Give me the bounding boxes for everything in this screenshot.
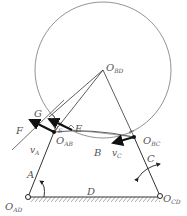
label-obd: OBD: [106, 62, 124, 74]
label-f: F: [15, 125, 24, 136]
joint-obc: [132, 135, 136, 139]
ground-hatch: [29, 197, 160, 202]
label-va: vA: [30, 145, 40, 156]
label-a: A: [26, 169, 34, 180]
label-vc: vC: [112, 148, 122, 159]
rotation-arrow-a: [40, 181, 45, 197]
coupler-curve: [54, 131, 134, 137]
line-obd-obc: [103, 70, 134, 137]
label-obc: OBC: [143, 135, 161, 147]
label-oab: OAB: [56, 135, 74, 147]
label-d: D: [86, 186, 95, 197]
velocity-vc-arrow: [113, 137, 134, 143]
label-oad: OAD: [5, 201, 23, 213]
pivot-oad: [26, 195, 31, 200]
velocity-va-arrow: [30, 120, 54, 132]
link-a: [28, 132, 54, 197]
label-b: B: [93, 147, 101, 158]
label-g: G: [34, 108, 42, 119]
label-c: C: [147, 153, 155, 164]
pivot-ocd: [158, 194, 163, 199]
label-ocd: OCD: [163, 193, 181, 205]
linkage-diagram: OBD OAB OBC OAD OCD E F G B A C D vA vE …: [0, 0, 187, 216]
line-obd-g: [49, 70, 103, 117]
label-e: E: [74, 123, 83, 134]
